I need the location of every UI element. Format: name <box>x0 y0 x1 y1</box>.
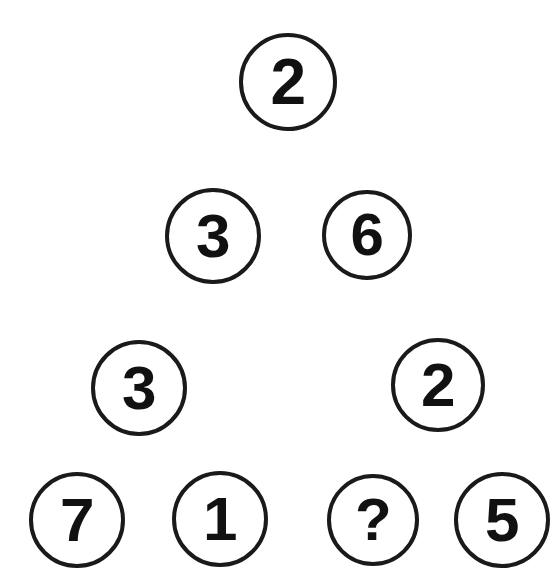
number-label: 6 <box>351 205 384 265</box>
number-circle-6-r2c2[interactable]: 6 <box>322 190 412 280</box>
number-circle-2-r3c2[interactable]: 2 <box>391 338 485 432</box>
number-circle-5-r4c4[interactable]: 5 <box>454 472 550 568</box>
number-circle-2-r1c1[interactable]: 2 <box>239 33 337 131</box>
unknown-marker-label: ? <box>355 490 391 550</box>
number-label: 3 <box>196 205 230 267</box>
number-label: 2 <box>421 354 455 416</box>
number-label: 5 <box>485 489 519 551</box>
number-circle-7-r4c1[interactable]: 7 <box>29 472 125 568</box>
number-label: 2 <box>270 50 305 114</box>
number-circle-3-r3c1[interactable]: 3 <box>91 340 187 436</box>
number-circle-unknown[interactable]: ? <box>327 474 419 566</box>
number-label: 1 <box>203 488 237 550</box>
number-pyramid-canvas: 2363271?5 <box>0 0 559 588</box>
number-label: 3 <box>122 357 156 419</box>
number-circle-3-r2c1[interactable]: 3 <box>165 188 261 284</box>
number-label: 7 <box>60 489 94 551</box>
number-circle-1-r4c2[interactable]: 1 <box>172 471 268 567</box>
